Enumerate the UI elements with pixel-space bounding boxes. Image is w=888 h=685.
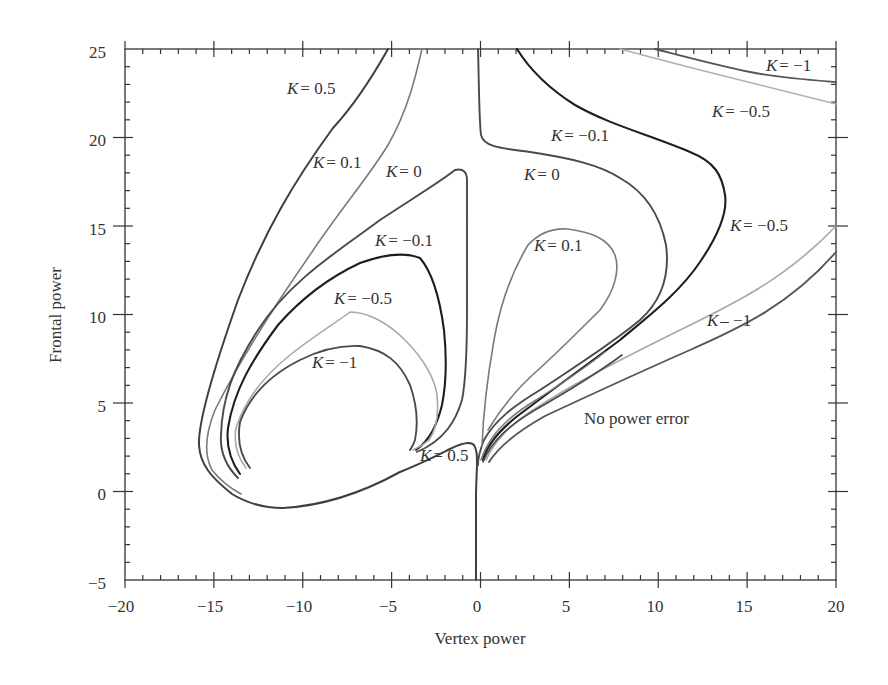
curve-label: K= −0.1	[374, 231, 433, 250]
curve-label: K= 0.1	[312, 153, 361, 172]
curve-k-minus-1-right	[489, 252, 836, 462]
curve-label: K= −1	[765, 56, 811, 75]
curve-label: K= −0.5	[333, 289, 392, 308]
curve-label: K= 0.5	[286, 79, 335, 98]
curve-label: K= 0.1	[533, 236, 582, 255]
x-tick-label: 10	[647, 597, 664, 616]
x-tick-label: 5	[562, 597, 571, 616]
x-tick-label: −20	[108, 597, 135, 616]
x-tick-label: 20	[828, 597, 845, 616]
curve-k-0.5	[199, 49, 477, 580]
y-tick-label: 25	[89, 43, 106, 62]
y-tick-label: 15	[89, 220, 106, 239]
x-tick-label: 0	[473, 597, 482, 616]
y-tick-label: 0	[98, 485, 107, 504]
x-tick-labels: −20 −15 −10 −5 0 5 10 15 20	[108, 597, 845, 616]
curve-label: K= 0	[523, 165, 560, 184]
x-tick-label: −5	[379, 597, 397, 616]
y-tick-labels: 25 20 15 10 5 0 −5	[88, 43, 106, 593]
curve-label: K= 0.5	[419, 446, 468, 465]
x-tick-label: 15	[736, 597, 753, 616]
x-tick-label: −10	[286, 597, 313, 616]
curve-label: K= −0.5	[711, 102, 770, 121]
no-power-error-label: No power error	[584, 409, 689, 428]
y-tick-label: 10	[89, 308, 106, 327]
curve-k-minus-0.1-right	[483, 49, 725, 460]
y-tick-label: −5	[88, 574, 106, 593]
y-tick-label: 5	[98, 397, 107, 416]
x-tick-label: −15	[197, 597, 224, 616]
curve-k-minus-0.5	[235, 312, 437, 468]
x-axis-title: Vertex power	[434, 629, 525, 648]
y-axis-title: Frontal power	[46, 267, 65, 363]
curve-label: K= −1	[311, 353, 357, 372]
curve-label: K– −1	[706, 311, 751, 330]
curve-label: K= 0	[385, 162, 422, 181]
contour-chart: −20 −15 −10 −5 0 5 10 15 20 25 20 15 10 …	[0, 0, 888, 685]
curve-label: K= −0.1	[550, 126, 609, 145]
curve-k-0	[221, 169, 467, 478]
curve-label: K= −0.5	[729, 216, 788, 235]
y-tick-label: 20	[89, 131, 106, 150]
